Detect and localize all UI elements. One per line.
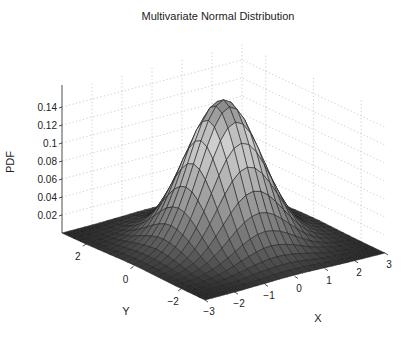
z-tick-label: 0.06 xyxy=(38,174,58,185)
x-tick-label: 1 xyxy=(326,275,332,286)
y-tick-label: 2 xyxy=(75,251,81,262)
y-tick-label: 0 xyxy=(123,274,129,285)
x-tick-label: −3 xyxy=(203,306,215,317)
z-tick-label: 0.04 xyxy=(38,192,58,203)
x-tick-label: 2 xyxy=(356,267,362,278)
surface-mesh xyxy=(62,100,385,300)
y-axis-label: Y xyxy=(122,305,130,317)
z-tick-label: 0.12 xyxy=(38,120,58,131)
z-tick-label: 0.1 xyxy=(43,138,57,149)
z-axis-label: PDF xyxy=(4,151,16,173)
x-tick-label: −2 xyxy=(233,298,245,309)
y-tick-label: −2 xyxy=(167,296,179,307)
x-tick-label: 3 xyxy=(386,259,392,270)
z-tick-label: 0.08 xyxy=(38,156,58,167)
z-tick-label: 0.14 xyxy=(38,102,58,113)
x-axis-label: X xyxy=(314,312,322,324)
z-axis-ticks: 0.020.040.060.080.10.120.14 xyxy=(38,102,62,221)
x-tick-label: 0 xyxy=(296,283,302,294)
z-tick-label: 0.02 xyxy=(38,210,58,221)
x-tick-label: −1 xyxy=(263,290,275,301)
chart-figure: Multivariate Normal Distribution 0.020.0… xyxy=(0,0,418,338)
surface-plot: Multivariate Normal Distribution 0.020.0… xyxy=(0,0,418,338)
chart-title: Multivariate Normal Distribution xyxy=(142,10,295,22)
